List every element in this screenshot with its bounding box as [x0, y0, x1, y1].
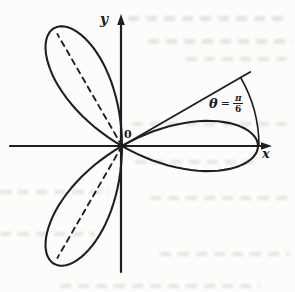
petal-axis-dashed-120	[57, 34, 122, 146]
angle-annotation: θ = π 6	[209, 94, 243, 113]
rose-diagram	[0, 0, 295, 292]
origin-label: 0	[124, 128, 132, 141]
figure-canvas: y x 0 θ = π 6	[0, 0, 295, 292]
theta-symbol: θ	[209, 96, 218, 111]
y-axis-label: y	[100, 11, 108, 27]
x-axis-label: x	[262, 146, 270, 161]
equals-sign: =	[221, 97, 230, 110]
pi-over-six-fraction: π 6	[233, 94, 244, 113]
petal-axis-dashed-240	[57, 146, 122, 258]
fraction-denominator: 6	[233, 103, 243, 113]
y-axis-arrowhead	[117, 14, 125, 25]
fraction-numerator: π	[233, 94, 244, 103]
